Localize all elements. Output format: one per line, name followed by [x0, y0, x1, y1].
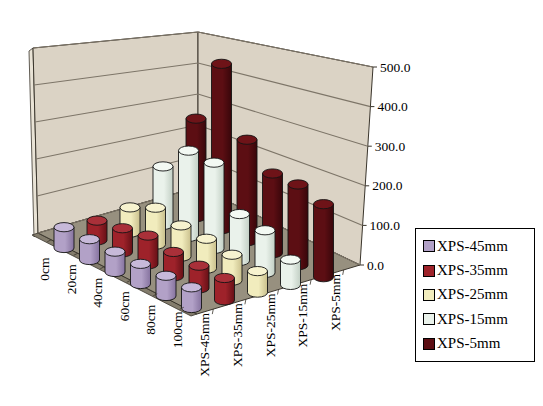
value-tick-label: 200.0 [372, 178, 403, 193]
category-axis-label: XPS-45mm [197, 313, 212, 377]
depth-axis-label: 0cm [37, 257, 52, 281]
legend-label: XPS-45mm [437, 239, 508, 254]
legend-swatch-icon [423, 338, 435, 350]
cylinder-top-XPS-25mm-100cm [248, 266, 268, 275]
cylinder-top-XPS-15mm-0cm [153, 162, 173, 171]
cylinder-top-XPS-35mm-100cm [215, 273, 235, 282]
value-tick-label: 100.0 [370, 218, 401, 233]
depth-axis-label: 20cm [64, 264, 79, 294]
cylinder-top-XPS-35mm-80cm [189, 261, 209, 270]
category-axis-label: XPS-15mm [295, 283, 310, 347]
cylinder-top-XPS-15mm-80cm [255, 226, 275, 235]
legend-item: XPS-5mm [423, 336, 532, 351]
cylinder-top-XPS-5mm-0cm [186, 114, 206, 123]
cylinder-top-XPS-45mm-0cm [54, 223, 74, 232]
legend-label: XPS-25mm [437, 287, 508, 302]
depth-axis-label: 60cm [117, 291, 132, 321]
cylinder-top-XPS-25mm-40cm [171, 221, 191, 230]
legend-item: XPS-45mm [423, 239, 532, 254]
cylinder-top-XPS-15mm-60cm [230, 209, 250, 218]
cylinder-top-XPS-25mm-20cm [146, 203, 166, 212]
cylinder-top-XPS-45mm-80cm [156, 271, 176, 280]
value-tick-label: 0.0 [367, 258, 384, 273]
cylinder-top-XPS-5mm-40cm [237, 135, 257, 144]
cylinder-top-XPS-25mm-80cm [222, 250, 242, 259]
depth-axis-label: 100cm [170, 311, 185, 348]
legend-swatch-icon [423, 240, 435, 252]
legend-label: XPS-35mm [437, 263, 508, 278]
cylinder-top-XPS-5mm-60cm [263, 169, 283, 178]
legend-swatch-icon [423, 289, 435, 301]
cylinder-top-XPS-15mm-20cm [179, 146, 199, 155]
legend-item: XPS-15mm [423, 312, 532, 327]
cylinder-top-XPS-5mm-20cm [212, 59, 232, 68]
cylinder-top-XPS-45mm-60cm [131, 259, 151, 268]
category-axis-label: XPS-35mm [230, 303, 245, 367]
cylinder-top-XPS-5mm-80cm [288, 180, 308, 189]
cylinder-top-XPS-35mm-20cm [113, 224, 133, 233]
chart-legend: XPS-45mmXPS-35mmXPS-25mmXPS-15mmXPS-5mm [415, 228, 535, 362]
cylinder-top-XPS-25mm-0cm [120, 203, 140, 212]
cylinder-body-XPS-5mm-100cm [314, 204, 334, 282]
legend-label: XPS-15mm [437, 312, 508, 327]
category-axis-label: XPS-5mm [328, 273, 343, 331]
legend-item: XPS-35mm [423, 263, 532, 278]
value-tick-label: 500.0 [380, 60, 411, 75]
legend-swatch-icon [423, 265, 435, 277]
cylinder-top-XPS-5mm-100cm [314, 200, 334, 209]
legend-item: XPS-25mm [423, 287, 532, 302]
cylinder-top-XPS-45mm-40cm [105, 247, 125, 256]
value-tick-label: 400.0 [377, 99, 408, 114]
value-tick-label: 300.0 [375, 139, 406, 154]
cylinder-top-XPS-25mm-60cm [197, 234, 217, 243]
cylinder-top-XPS-35mm-60cm [164, 247, 184, 256]
cylinder-top-XPS-45mm-20cm [80, 235, 100, 244]
depth-axis-label: 80cm [143, 304, 158, 334]
cylinder-top-XPS-15mm-100cm [281, 255, 301, 264]
cylinder-top-XPS-15mm-40cm [204, 158, 224, 167]
legend-swatch-icon [423, 313, 435, 325]
legend-label: XPS-5mm [437, 336, 500, 351]
depth-axis-label: 40cm [90, 277, 105, 307]
cylinder-top-XPS-45mm-100cm [182, 283, 202, 292]
cylinder-top-XPS-35mm-40cm [138, 231, 158, 240]
chart-canvas: 0.0100.0200.0300.0400.0500.00cm20cm40cm6… [0, 0, 543, 406]
category-axis-label: XPS-25mm [263, 293, 278, 357]
cylinder-top-XPS-35mm-0cm [87, 216, 107, 225]
